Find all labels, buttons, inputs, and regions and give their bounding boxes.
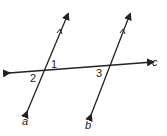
line-a bbox=[27, 14, 68, 112]
angle-1-label: 1 bbox=[51, 58, 57, 70]
line-a-label: a bbox=[22, 115, 28, 127]
line-b-label: b bbox=[85, 119, 91, 131]
angle-2-label: 2 bbox=[30, 72, 36, 84]
angle-3-label: 3 bbox=[96, 67, 102, 79]
line-c-label: c bbox=[152, 56, 158, 68]
parallel-lines-diagram: 1 2 3 a b c bbox=[0, 0, 167, 136]
